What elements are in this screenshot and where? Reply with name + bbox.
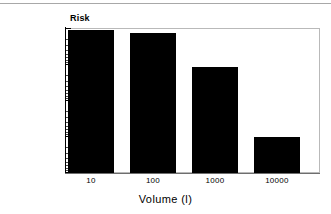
y-axis-title: Risk [70, 13, 90, 23]
x-axis-title: Volume (l) [0, 193, 331, 205]
bar-10000 [254, 137, 300, 173]
x-axis-line [65, 173, 320, 174]
y-axis-tick-labels: 0.01 1.000E-03 1.000E-04 1.000E-05 1.000… [0, 0, 62, 214]
chart-figure: Risk 0.01 1.000E-03 1.000E-04 1.000E-05 … [0, 0, 331, 214]
bar-1000 [192, 67, 238, 173]
x-tick-label: 100 [133, 176, 173, 185]
bar-10 [68, 30, 114, 173]
x-tick-label: 1000 [195, 176, 235, 185]
x-tick-label: 10 [71, 176, 111, 185]
bar-100 [130, 33, 176, 173]
x-tick-label: 10000 [257, 176, 297, 185]
y-tick-major [66, 28, 71, 29]
